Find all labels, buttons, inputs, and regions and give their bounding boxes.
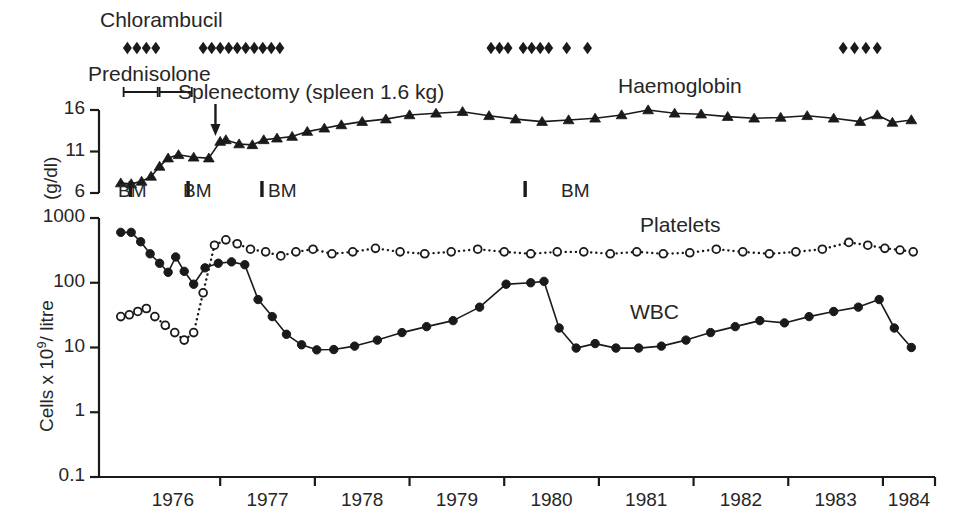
platelets-series-point (896, 246, 904, 254)
wbc-series-point (780, 319, 788, 327)
chlorambucil-dose-marker (142, 42, 151, 54)
wbc-series-point (731, 322, 739, 330)
x-tick-label-1983: 1983 (814, 489, 856, 511)
wbc-series-point (422, 322, 430, 330)
platelets-series-point (447, 248, 455, 256)
platelets-series-point (180, 336, 188, 344)
platelets-series-point (117, 313, 125, 321)
splenectomy-arrow-head (210, 124, 220, 136)
wbc-series-point (330, 345, 338, 353)
chlorambucil-dose-marker (495, 42, 504, 54)
wbc-series-point (756, 316, 764, 324)
platelets-series-point (765, 250, 773, 258)
platelets-series-point (372, 244, 380, 252)
platelets-series-point (845, 238, 853, 246)
wbc-series-point (268, 312, 276, 320)
haemoglobin-y-axis-title: (g/dl) (40, 157, 62, 200)
wbc-series-point (854, 303, 862, 311)
platelets-series-point (864, 241, 872, 249)
cells-y-axis-title: Cells x 109/ litre (36, 300, 58, 432)
platelets-series-point (712, 245, 720, 253)
chlorambucil-dose-marker (241, 42, 250, 54)
platelets-series-point (909, 248, 917, 256)
wbc-series-point (475, 303, 483, 311)
platelets-series-point (247, 245, 255, 253)
haemoglobin-y-tick-label-6: 6 (74, 180, 85, 202)
chlorambucil-dose-marker (504, 42, 513, 54)
wbc-series-point (189, 280, 197, 288)
chlorambucil-dose-marker (850, 42, 859, 54)
chlorambucil-dose-marker (527, 42, 536, 54)
chlorambucil-dose-marker (224, 42, 233, 54)
chlorambucil-dose-marker (258, 42, 267, 54)
platelets-series-point (421, 250, 429, 258)
platelets-series-point (580, 248, 588, 256)
platelets-series-point (500, 248, 508, 256)
chlorambucil-dose-marker (275, 42, 284, 54)
platelets-series-point (527, 250, 535, 258)
wbc-series-point (227, 258, 235, 266)
platelets-series-point (633, 248, 641, 256)
cells-axis-title-exponent: 9 (34, 341, 49, 348)
platelets-series-point (328, 250, 336, 258)
x-tick-label-1976: 1976 (152, 489, 194, 511)
wbc-series-point (682, 336, 690, 344)
cells-y-tick-label-1: 1 (74, 399, 85, 421)
chlorambucil-dose-marker (536, 42, 545, 54)
cells-y-tick-label-1000: 1000 (43, 205, 85, 227)
platelets-series-point (142, 305, 150, 313)
wbc-series-point (634, 344, 642, 352)
x-tick-label-1978: 1978 (341, 489, 383, 511)
wbc-series-point (805, 312, 813, 320)
platelets-series-label: Platelets (640, 213, 721, 237)
wbc-series-point (612, 344, 620, 352)
platelets-series-point (211, 241, 219, 249)
chlorambucil-dose-marker (562, 42, 571, 54)
wbc-series-point (171, 253, 179, 261)
haemoglobin-series-point (802, 111, 813, 120)
platelets-series-point (349, 248, 357, 256)
wbc-series-point (127, 228, 135, 236)
haemoglobin-series-point (906, 115, 917, 124)
wbc-series-point (201, 264, 209, 272)
platelets-series-point (309, 245, 317, 253)
splenectomy-label: Splenectomy (spleen 1.6 kg) (178, 80, 444, 104)
chlorambucil-label: Chlorambucil (100, 8, 223, 32)
wbc-series-point (254, 295, 262, 303)
wbc-series-point (890, 324, 898, 332)
wbc-series-point (136, 238, 144, 246)
x-tick-label-1979: 1979 (436, 489, 478, 511)
wbc-series-point (449, 316, 457, 324)
cells-axis-title-pre: Cells x 10 (36, 349, 57, 432)
platelets-series-point (190, 329, 198, 337)
wbc-series-point (350, 342, 358, 350)
chlorambucil-dose-marker (519, 42, 528, 54)
haemoglobin-series-point (643, 105, 654, 114)
bone-marrow-label-1: BM (118, 180, 147, 202)
platelets-series-point (292, 248, 300, 256)
chlorambucil-dose-marker (207, 42, 216, 54)
chlorambucil-dose-marker (216, 42, 225, 54)
chlorambucil-dose-marker (199, 42, 208, 54)
platelets-series-point (262, 248, 270, 256)
platelets-series-point (161, 321, 169, 329)
wbc-series-point (155, 259, 163, 267)
platelets-series-point (686, 249, 694, 257)
bone-marrow-marker (523, 181, 526, 197)
wbc-series-point (297, 341, 305, 349)
wbc-series-point (555, 324, 563, 332)
wbc-series-point (373, 336, 381, 344)
wbc-series-point (502, 280, 510, 288)
haemoglobin-y-tick-label-16: 16 (64, 97, 85, 119)
platelets-series-point (151, 313, 159, 321)
platelets-series-point (818, 245, 826, 253)
haemoglobin-series-label: Haemoglobin (618, 74, 742, 98)
haemoglobin-series-point (457, 107, 468, 116)
bone-marrow-marker (260, 181, 263, 197)
x-tick-label-1982: 1982 (720, 489, 762, 511)
haematology-chart-figure: ChlorambucilPrednisoloneSplenectomy (spl… (0, 0, 960, 527)
wbc-series-label: WBC (630, 300, 679, 324)
cells-axis-title-post: / litre (36, 300, 57, 341)
platelets-series-point (396, 248, 404, 256)
chlorambucil-dose-marker (486, 42, 495, 54)
